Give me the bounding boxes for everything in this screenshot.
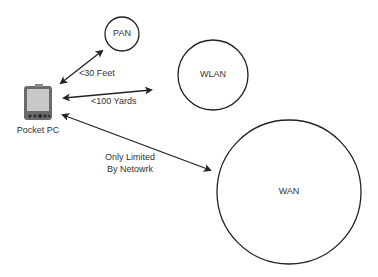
wan-distance-line2: By Netowrk: [100, 163, 160, 175]
wlan-distance-label: <100 Yards: [91, 96, 136, 106]
device-label: Pocket PC: [10, 125, 66, 135]
pan-distance-label: <30 Feet: [79, 68, 115, 78]
wan-label: WAN: [269, 186, 309, 196]
pan-label: PAN: [108, 28, 136, 38]
wan-distance-line1: Only Limited: [100, 151, 160, 163]
arrow-to-pan: [61, 51, 102, 83]
pda-icon: [24, 84, 52, 120]
wlan-label: WLAN: [193, 69, 233, 79]
diagram-canvas: [0, 0, 378, 277]
wan-distance-label: Only Limited By Netowrk: [100, 151, 160, 175]
